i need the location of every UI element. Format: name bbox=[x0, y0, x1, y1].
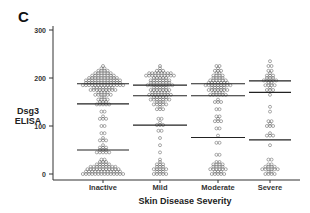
data-point bbox=[97, 98, 100, 101]
data-point bbox=[152, 173, 155, 176]
data-point bbox=[264, 84, 267, 87]
data-point bbox=[223, 173, 226, 176]
data-point bbox=[215, 108, 218, 111]
data-point bbox=[94, 93, 97, 96]
data-point bbox=[108, 151, 111, 154]
data-point bbox=[157, 117, 160, 120]
y-tick-label: 200 bbox=[34, 75, 46, 82]
data-point bbox=[152, 103, 155, 106]
data-point bbox=[207, 89, 210, 92]
data-point bbox=[270, 158, 273, 161]
data-point bbox=[218, 127, 221, 130]
data-point bbox=[157, 129, 160, 132]
data-point bbox=[264, 173, 267, 176]
data-point bbox=[100, 110, 103, 113]
data-point bbox=[155, 69, 158, 72]
data-point bbox=[145, 74, 148, 77]
data-point bbox=[215, 65, 218, 68]
data-point bbox=[162, 108, 165, 111]
data-point bbox=[270, 69, 273, 72]
data-point bbox=[165, 173, 168, 176]
data-point bbox=[213, 101, 216, 104]
x-tick-label-inactive: Inactive bbox=[89, 183, 117, 192]
data-point bbox=[215, 153, 218, 156]
data-point bbox=[149, 89, 152, 92]
x-tick-label-severe: Severe bbox=[258, 183, 283, 192]
data-point bbox=[209, 168, 212, 171]
data-point bbox=[267, 65, 270, 68]
data-point bbox=[209, 79, 212, 82]
data-point bbox=[98, 139, 101, 142]
data-point bbox=[210, 173, 213, 176]
data-point bbox=[155, 108, 158, 111]
data-point bbox=[224, 168, 227, 171]
data-point bbox=[81, 173, 84, 176]
data-point bbox=[213, 120, 216, 123]
data-point bbox=[105, 139, 108, 142]
data-point bbox=[273, 84, 276, 87]
data-point bbox=[267, 158, 270, 161]
data-point bbox=[168, 89, 171, 92]
data-point bbox=[86, 168, 89, 171]
y-tick-label: 0 bbox=[42, 171, 46, 178]
data-point bbox=[269, 144, 272, 147]
data-point bbox=[218, 141, 221, 144]
y-tick-label: 300 bbox=[34, 27, 46, 34]
data-point bbox=[220, 101, 223, 104]
data-point bbox=[114, 89, 117, 92]
data-point bbox=[172, 74, 175, 77]
data-point bbox=[270, 65, 273, 68]
data-point bbox=[168, 98, 171, 101]
data-point bbox=[217, 134, 220, 137]
data-point bbox=[261, 168, 264, 171]
data-point bbox=[269, 110, 272, 113]
data-point bbox=[100, 158, 103, 161]
data-point bbox=[162, 69, 165, 72]
data-point bbox=[160, 129, 163, 132]
data-point bbox=[100, 132, 103, 135]
x-tick-label-mild: Mild bbox=[153, 183, 168, 192]
data-point bbox=[267, 120, 270, 123]
data-point bbox=[269, 105, 272, 108]
data-point bbox=[265, 134, 268, 137]
data-point bbox=[98, 117, 101, 120]
data-point bbox=[213, 69, 216, 72]
data-point bbox=[122, 173, 125, 176]
data-point bbox=[272, 125, 275, 128]
data-point bbox=[103, 158, 106, 161]
data-point bbox=[224, 79, 227, 82]
data-point bbox=[270, 120, 273, 123]
data-point bbox=[152, 168, 155, 171]
data-point bbox=[215, 115, 218, 118]
data-point bbox=[103, 110, 106, 113]
data-point bbox=[218, 65, 221, 68]
data-point bbox=[265, 89, 268, 92]
data-point bbox=[100, 125, 103, 128]
data-point bbox=[218, 115, 221, 118]
data-point bbox=[160, 117, 163, 120]
data-point bbox=[218, 153, 221, 156]
data-point bbox=[103, 125, 106, 128]
data-point bbox=[272, 134, 275, 137]
data-point bbox=[159, 151, 162, 154]
data-point bbox=[165, 103, 168, 106]
data-point bbox=[109, 93, 112, 96]
data-point bbox=[215, 127, 218, 130]
data-point bbox=[159, 144, 162, 147]
data-point bbox=[269, 93, 272, 96]
plot-area: 0100200300InactiveMildModerateSevere bbox=[0, 0, 310, 213]
data-point bbox=[215, 141, 218, 144]
data-point bbox=[103, 132, 106, 135]
data-point bbox=[273, 173, 276, 176]
data-point bbox=[218, 108, 221, 111]
data-point bbox=[165, 168, 168, 171]
y-tick-label: 100 bbox=[34, 123, 46, 130]
x-tick-label-moderate: Moderate bbox=[201, 183, 234, 192]
data-point bbox=[106, 98, 109, 101]
data-point bbox=[95, 151, 98, 154]
data-point bbox=[89, 89, 92, 92]
data-point bbox=[226, 89, 229, 92]
data-point bbox=[159, 137, 162, 140]
data-point bbox=[267, 69, 270, 72]
data-point bbox=[272, 89, 275, 92]
